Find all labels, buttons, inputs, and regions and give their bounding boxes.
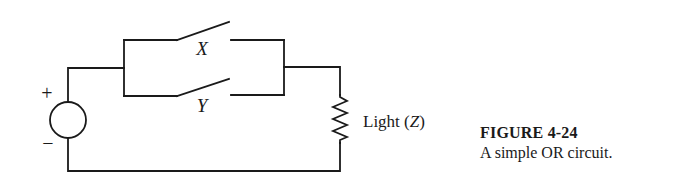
wire-return bbox=[68, 138, 340, 171]
wire-switches-to-load bbox=[284, 67, 340, 95]
light-label-close: ) bbox=[419, 112, 425, 131]
switch-y-label: Y bbox=[197, 95, 210, 116]
voltage-source-symbol bbox=[50, 102, 86, 138]
switch-y: Y bbox=[177, 79, 229, 116]
switch-x-label: X bbox=[195, 38, 209, 59]
light-label: Light (Z) bbox=[363, 112, 425, 131]
light-label-text: Light ( bbox=[363, 112, 410, 131]
voltage-source: + − bbox=[41, 82, 86, 154]
wire-source-to-switches bbox=[68, 68, 124, 102]
minus-terminal-label: − bbox=[42, 132, 53, 154]
plus-terminal-label: + bbox=[41, 82, 52, 104]
light-load: Light (Z) bbox=[333, 95, 425, 143]
figure-number: FIGURE 4-24 bbox=[480, 123, 612, 143]
resistor-symbol bbox=[333, 95, 347, 143]
figure-description: A simple OR circuit. bbox=[480, 143, 612, 163]
switch-y-blade bbox=[177, 79, 229, 96]
switch-x: X bbox=[177, 22, 229, 59]
figure-caption: FIGURE 4-24 A simple OR circuit. bbox=[480, 123, 612, 163]
